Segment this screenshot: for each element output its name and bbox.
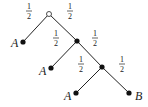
tree-node-icon	[126, 90, 131, 95]
outcome-label: A	[63, 89, 72, 103]
root-node-icon	[47, 12, 52, 17]
branch-probability: 12	[26, 2, 32, 21]
probability-numerator: 1	[79, 55, 83, 64]
probability-numerator: 1	[68, 2, 72, 11]
outcome-label: A	[38, 64, 47, 78]
probability-numerator: 1	[120, 55, 124, 64]
outcome-label: A	[10, 36, 19, 50]
tree-node-icon	[48, 65, 53, 70]
branch-probability: 12	[92, 29, 98, 48]
probability-denominator: 2	[93, 39, 97, 48]
branch-probability: 12	[78, 55, 84, 74]
probability-numerator: 1	[54, 29, 58, 38]
probability-denominator: 2	[27, 12, 31, 21]
branch-probability: 12	[67, 2, 73, 21]
probability-numerator: 1	[93, 29, 97, 38]
probability-numerator: 1	[27, 2, 31, 11]
tree-branch	[102, 67, 129, 93]
branch-probability: 12	[119, 55, 125, 74]
outcome-label: B	[135, 89, 143, 103]
tree-node-icon	[20, 39, 25, 44]
tree-node-icon	[73, 90, 78, 95]
probability-tree-diagram: 121212121212AAAB	[0, 0, 148, 107]
tree-node-icon	[74, 38, 79, 43]
probability-denominator: 2	[54, 39, 58, 48]
probability-denominator: 2	[120, 65, 124, 74]
probability-denominator: 2	[68, 12, 72, 21]
tree-node-icon	[99, 64, 104, 69]
probability-denominator: 2	[79, 65, 83, 74]
branch-probability: 12	[53, 29, 59, 48]
